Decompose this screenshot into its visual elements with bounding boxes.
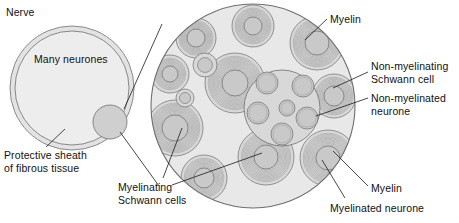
myelinated-neurone	[176, 18, 216, 58]
label-myelin-top: Myelin	[330, 13, 361, 26]
label-many-neurones: Many neurones	[34, 53, 108, 66]
myelinated-neurone	[181, 155, 227, 201]
non-myelinating-schwann-cell	[244, 70, 320, 146]
cone-line-lower	[120, 132, 159, 186]
fascicle-highlight	[93, 105, 127, 139]
label-myelinating-schwann-cells: Myelinating Schwann cells	[118, 181, 186, 206]
label-nerve: Nerve	[6, 6, 35, 19]
nerve-diagram: Nerve Many neurones Protective sheath of…	[0, 0, 459, 223]
myelinated-neurone	[147, 100, 203, 156]
non-myelinated-neurone	[247, 102, 269, 124]
nerve-cross-section-group	[10, 26, 134, 150]
non-myelinated-neurone	[271, 123, 293, 145]
myelinated-neurone	[232, 5, 274, 47]
small-neurone	[193, 53, 217, 77]
leader-myelin-bottom	[333, 151, 368, 186]
non-myelinated-neurone	[296, 107, 318, 129]
label-non-myelinating-schwann-cell: Non-myelinating Schwann cell	[371, 60, 448, 85]
label-non-myelinated-neurone: Non-myelinated neurone	[371, 92, 446, 117]
label-protective-sheath: Protective sheath of fibrous tissue	[4, 149, 87, 174]
label-myelin-bottom: Myelin	[371, 182, 402, 195]
small-neurone	[176, 89, 194, 107]
label-myelinated-neurone: Myelinated neurone	[330, 202, 424, 215]
non-myelinated-neurone	[279, 100, 295, 116]
myelinated-neurone	[300, 130, 356, 186]
magnified-fascicle-group	[147, 4, 356, 208]
non-myelinated-neurone	[292, 75, 314, 97]
non-myelinated-neurone	[256, 72, 278, 94]
